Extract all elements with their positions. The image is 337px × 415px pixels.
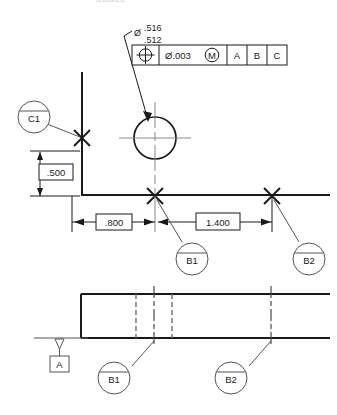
datum-reference-c: C	[274, 50, 281, 61]
hole-diameter-symbol: Ø	[134, 28, 141, 38]
balloon-c1-label: C1	[28, 113, 40, 124]
hole-lower-limit: .512	[144, 35, 162, 45]
vertical-dimension-value: .500	[47, 167, 66, 178]
balloon-b2-side[interactable]: B2	[215, 362, 247, 394]
horizontal-dimension-1-value: .800	[105, 217, 124, 228]
position-tolerance-value: Ø.003	[165, 50, 191, 61]
hole-upper-limit: .516	[144, 23, 162, 33]
balloon-b2-top-label: B2	[303, 255, 315, 266]
balloon-b2-side-label: B2	[225, 374, 237, 385]
balloon-b2-top-leader	[274, 200, 299, 242]
technical-drawing-canvas: Ø .516 .512 Ø.003 M A B C	[0, 0, 337, 415]
datum-feature-a[interactable]: A	[34, 338, 88, 372]
balloon-b1-side-leader	[132, 341, 154, 366]
balloon-b1-top-label: B1	[186, 255, 198, 266]
feature-control-frame: Ø.003 M A B C	[132, 45, 287, 65]
balloon-b1-side[interactable]: B1	[98, 362, 130, 394]
mmc-modifier-letter: M	[208, 50, 216, 61]
balloon-c1[interactable]: C1	[18, 101, 50, 133]
datum-reference-a: A	[234, 50, 241, 61]
datum-reference-b: B	[254, 50, 260, 61]
balloon-b2-top[interactable]: B2	[293, 243, 325, 275]
horizontal-dimension-2-value: 1.400	[206, 217, 230, 228]
balloon-b1-top-leader	[157, 200, 182, 242]
hole-callout-leader-shoulder	[124, 31, 132, 36]
balloon-b1-top[interactable]: B1	[176, 243, 208, 275]
balloon-b2-side-leader	[249, 341, 271, 366]
datum-feature-a-label: A	[56, 359, 63, 370]
vertical-dimension-group: .500	[30, 151, 80, 196]
horizontal-dimension-group: .800 1.400	[72, 196, 272, 232]
balloon-b1-side-label: B1	[108, 374, 120, 385]
